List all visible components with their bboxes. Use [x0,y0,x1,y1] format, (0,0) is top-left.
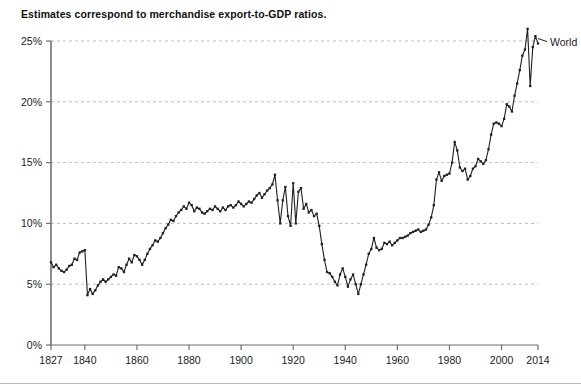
series-data-point [477,158,479,160]
series-data-point [503,118,505,120]
series-data-point [427,223,429,225]
x-axis-tick-label: 2000 [490,354,514,366]
series-group [50,28,539,297]
series-data-point [133,254,135,256]
series-data-point [329,272,331,274]
series-data-point [321,243,323,245]
series-data-point [295,222,297,224]
series-data-point [159,237,161,239]
gridlines-group [51,41,538,284]
series-data-point [412,231,414,233]
series-data-point [318,225,320,227]
series-data-point [336,284,338,286]
series-data-point [276,199,278,201]
series-data-point [422,230,424,232]
series-data-point [105,281,107,283]
series-data-point [334,281,336,283]
series-data-point [172,220,174,222]
series-data-point [297,191,299,193]
series-data-point [162,232,164,234]
series-data-point [224,209,226,211]
series-data-point [362,273,364,275]
series-data-point [521,54,523,56]
series-label-world: World [550,36,577,48]
y-axis-tick-label: 10% [21,217,42,229]
series-data-point [198,208,200,210]
chart-figure: Estimates correspond to merchandise expo… [0,0,581,386]
series-data-point [381,248,383,250]
series-data-point [480,160,482,162]
series-data-point [243,205,245,207]
series-data-point [435,178,437,180]
series-data-point [97,284,99,286]
series-data-point [456,149,458,151]
series-data-point [81,250,83,252]
series-data-point [279,222,281,224]
series-data-point [287,215,289,217]
bottom-divider [0,383,581,384]
series-data-point [79,251,81,253]
series-data-point [485,159,487,161]
y-axis-tick-label: 0% [27,339,42,351]
series-data-point [71,264,73,266]
x-axis-tick-label: 1960 [386,354,410,366]
series-data-point [227,205,229,207]
series-data-point [511,110,513,112]
series-data-point [250,202,252,204]
series-data-point [131,261,133,263]
series-data-point [58,267,60,269]
series-data-point [110,276,112,278]
series-data-point [193,210,195,212]
series-data-point [76,259,78,261]
series-data-point [401,237,403,239]
series-data-point [498,123,500,125]
series-data-point [414,230,416,232]
series-data-point [292,182,294,184]
series-data-point [370,248,372,250]
series-data-point [349,278,351,280]
series-data-point [86,294,88,296]
series-data-point [500,125,502,127]
x-axis-tick-label: 1827 [39,354,63,366]
series-data-point [529,85,531,87]
series-data-point [188,202,190,204]
series-data-point [487,148,489,150]
series-data-point [438,171,440,173]
series-data-point [120,267,122,269]
series-data-point [355,283,357,285]
series-data-point [256,194,258,196]
series-data-point [65,268,67,270]
series-data-point [519,69,521,71]
series-data-point [60,270,62,272]
series-data-point [331,276,333,278]
series-data-point [55,264,57,266]
series-data-point [180,209,182,211]
series-data-point [495,121,497,123]
series-data-point [326,271,328,273]
series-data-point [391,244,393,246]
series-data-point [448,172,450,174]
series-data-point [240,203,242,205]
series-data-point [417,228,419,230]
series-data-point [50,261,52,263]
series-data-point [175,215,177,217]
series-data-point [339,273,341,275]
series-data-point [253,198,255,200]
series-data-point [289,225,291,227]
y-axis-tick-label: 5% [27,278,42,290]
series-data-point [302,208,304,210]
series-data-point [472,168,474,170]
series-data-point [373,237,375,239]
series-data-point [469,175,471,177]
y-tick-group: 0%5%10%15%20%25% [21,35,51,351]
series-data-point [516,82,518,84]
series-data-point [464,168,466,170]
series-data-point [532,46,534,48]
series-data-point [73,258,75,260]
series-data-point [433,204,435,206]
series-data-point [211,209,213,211]
series-data-point [310,209,312,211]
series-data-point [305,203,307,205]
series-data-point [167,223,169,225]
series-annotation-group: World [538,36,577,48]
